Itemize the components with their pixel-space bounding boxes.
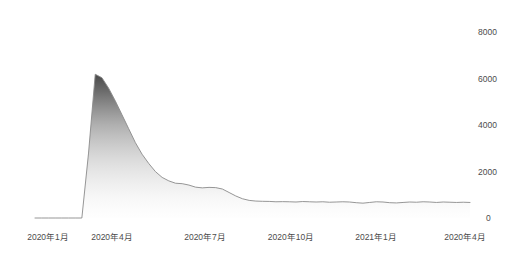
y-tick-label-6000: 6000 — [478, 74, 497, 84]
x-tick-label-3: 2020年7月 — [184, 230, 226, 242]
y-tick-label-4000: 4000 — [478, 120, 497, 130]
y-tick-label-8000: 8000 — [478, 27, 497, 37]
x-tick-label-4: 2020年10月 — [268, 230, 314, 242]
x-tick-label-2: 2020年4月 — [91, 230, 133, 242]
x-tick-label-1: 2020年1月 — [27, 230, 69, 242]
x-tick-label-6: 2020年4月 — [444, 230, 486, 242]
area-chart: 8000 6000 4000 2000 0 2020年1月 2020年4月 20… — [0, 0, 523, 258]
chart-plot-area — [0, 0, 523, 258]
y-tick-label-2000: 2000 — [478, 167, 497, 177]
x-tick-label-5: 2021年1月 — [355, 230, 397, 242]
series-area — [35, 74, 470, 218]
y-tick-label-0: 0 — [486, 213, 491, 223]
